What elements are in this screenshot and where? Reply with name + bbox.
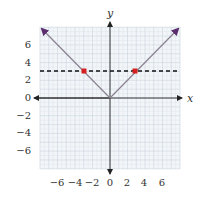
- svg-text:−2: −2: [85, 177, 100, 188]
- y-tick-labels: 6 4 2 0 −2 −4 −6: [16, 39, 31, 156]
- x-axis-label: x: [187, 92, 194, 105]
- x-tick-labels: −6 −4 −2 0 2 4 6: [50, 177, 166, 188]
- chart: x y −6 −4 −2 0 2 4 6 6 4 2 0 −2 −4 −6: [0, 0, 209, 200]
- svg-text:4: 4: [25, 57, 31, 68]
- svg-text:0: 0: [25, 92, 31, 103]
- svg-text:6: 6: [25, 39, 31, 50]
- svg-text:2: 2: [124, 177, 130, 188]
- svg-text:4: 4: [141, 177, 147, 188]
- svg-text:−4: −4: [16, 127, 31, 138]
- svg-text:0: 0: [107, 177, 113, 188]
- svg-text:2: 2: [25, 74, 31, 85]
- y-axis-label: y: [106, 7, 114, 20]
- intersection-point-right: [133, 69, 138, 74]
- intersection-point-left: [82, 69, 87, 74]
- svg-text:−6: −6: [16, 145, 31, 156]
- svg-text:−4: −4: [68, 177, 83, 188]
- svg-text:−6: −6: [50, 177, 65, 188]
- svg-text:−2: −2: [16, 110, 31, 121]
- svg-text:6: 6: [159, 177, 165, 188]
